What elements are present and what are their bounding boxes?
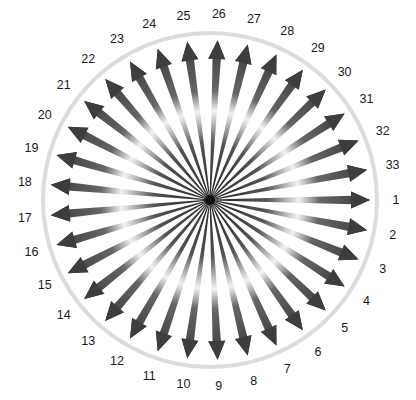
arrow-label: 19 xyxy=(25,141,39,155)
arrow-label: 5 xyxy=(341,321,348,335)
arrow-starburst-diagram: 1234567891011121314151617181920212223242… xyxy=(0,0,416,400)
arrow-label: 12 xyxy=(110,354,124,368)
arrow-label: 9 xyxy=(215,379,222,393)
arrow-label: 31 xyxy=(360,92,374,106)
arrow-label: 13 xyxy=(81,334,95,348)
arrow-label: 20 xyxy=(38,108,52,122)
arrowhead-icon xyxy=(179,40,199,61)
arrowhead-icon xyxy=(179,338,199,359)
arrow-label: 7 xyxy=(284,362,291,376)
arrow-label: 18 xyxy=(18,175,32,189)
arrowhead-icon xyxy=(235,43,256,65)
arrow-label: 10 xyxy=(177,377,191,391)
arrowhead-icon xyxy=(338,245,362,268)
arrow-label: 17 xyxy=(18,211,32,225)
arrow-label: 32 xyxy=(376,124,390,138)
arrowhead-icon xyxy=(347,218,369,238)
arrow-label: 28 xyxy=(280,24,294,38)
arrowhead-icon xyxy=(208,40,226,60)
center-hub xyxy=(205,195,215,205)
arrowhead-icon xyxy=(347,161,369,181)
arrowhead-icon xyxy=(54,147,77,169)
arrow-label: 25 xyxy=(177,9,191,23)
arrow-label: 29 xyxy=(311,41,325,55)
arrow-label: 21 xyxy=(57,78,71,92)
arrow-label: 30 xyxy=(338,65,352,79)
arrow-label: 33 xyxy=(386,158,400,172)
arrow-label: 24 xyxy=(142,17,156,31)
arrowhead-icon xyxy=(208,340,226,360)
arrow-label: 6 xyxy=(314,345,321,359)
arrowhead-icon xyxy=(150,46,172,70)
arrowhead-icon xyxy=(54,232,77,254)
arrowhead-icon xyxy=(351,192,370,209)
arrow-label: 11 xyxy=(143,369,156,383)
arrow-label: 2 xyxy=(389,228,396,242)
arrow-label: 27 xyxy=(247,12,261,26)
arrow-label: 1 xyxy=(393,193,400,207)
arrow-label: 8 xyxy=(250,374,257,388)
arrow-label: 3 xyxy=(379,262,386,276)
arrow-label: 16 xyxy=(25,245,39,259)
arrowhead-icon xyxy=(235,335,256,357)
arrow-label: 4 xyxy=(363,294,370,308)
arrowhead-icon xyxy=(150,330,172,354)
arrow-label: 14 xyxy=(57,308,71,322)
arrowhead-icon xyxy=(50,205,71,224)
arrowhead-icon xyxy=(338,133,362,156)
arrow-label: 23 xyxy=(110,32,124,46)
arrowhead-icon xyxy=(50,176,71,195)
arrow-label: 15 xyxy=(38,278,52,292)
starburst-canvas xyxy=(0,0,416,400)
arrow-label: 26 xyxy=(212,7,226,21)
arrow-label: 22 xyxy=(81,52,95,66)
